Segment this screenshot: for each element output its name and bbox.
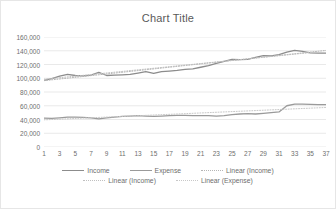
legend-row: IncomeExpenseLinear (Income) (62, 167, 273, 174)
x-axis-tick: 33 (291, 150, 298, 157)
legend-swatch-icon (83, 180, 105, 181)
series-line[interactable] (44, 107, 326, 119)
legend-swatch-icon (130, 170, 152, 171)
legend-item[interactable]: Linear (Income) (201, 167, 274, 174)
y-axis-tick: 0 (1, 144, 40, 151)
legend-row: Linear (Income)Linear (Expense) (83, 177, 252, 184)
legend-label: Linear (Income) (226, 167, 274, 174)
series-line[interactable] (44, 52, 318, 80)
legend-swatch-icon (201, 170, 223, 171)
x-axis-tick: 23 (213, 150, 220, 157)
chart-title[interactable]: Chart Title (1, 12, 335, 24)
y-axis-tick: 80,000 (1, 89, 40, 96)
y-axis-tick: 140,000 (1, 47, 40, 54)
y-axis-tick: 40,000 (1, 116, 40, 123)
y-axis-tick: 120,000 (1, 61, 40, 68)
x-axis-tick: 5 (74, 150, 78, 157)
y-axis-tick: 160,000 (1, 34, 40, 41)
series-line[interactable] (44, 104, 326, 119)
x-axis-tick: 19 (181, 150, 188, 157)
x-axis-tick: 1 (42, 150, 46, 157)
x-axis-tick: 7 (89, 150, 93, 157)
y-axis-labels: 160,000140,000120,000100,00080,00060,000… (1, 37, 40, 147)
legend-label: Linear (Expense) (201, 177, 253, 184)
x-axis-tick: 13 (134, 150, 141, 157)
chart-legend[interactable]: IncomeExpenseLinear (Income)Linear (Inco… (1, 167, 335, 184)
legend-item[interactable]: Linear (Expense) (176, 177, 253, 184)
plot-area[interactable] (44, 37, 326, 147)
x-axis-tick: 37 (322, 150, 329, 157)
legend-item[interactable]: Income (62, 167, 109, 174)
legend-item[interactable]: Linear (Income) (83, 177, 156, 184)
y-axis-tick: 60,000 (1, 102, 40, 109)
x-axis-tick: 3 (58, 150, 62, 157)
x-axis-tick: 11 (119, 150, 126, 157)
legend-swatch-icon (62, 170, 84, 171)
x-axis-tick: 17 (166, 150, 173, 157)
x-axis-tick: 21 (197, 150, 204, 157)
y-axis-tick: 20,000 (1, 130, 40, 137)
x-axis-labels: 135791113151719212325272931333537 (44, 150, 326, 162)
x-axis-tick: 31 (275, 150, 282, 157)
legend-swatch-icon (176, 180, 198, 181)
x-axis-tick: 29 (260, 150, 267, 157)
y-axis-tick: 100,000 (1, 75, 40, 82)
x-axis-tick: 9 (105, 150, 109, 157)
x-axis-tick: 15 (150, 150, 157, 157)
legend-label: Linear (Income) (108, 177, 156, 184)
x-axis-tick: 25 (228, 150, 235, 157)
x-axis-tick: 35 (307, 150, 314, 157)
legend-label: Income (87, 167, 109, 174)
chart-container[interactable]: Chart Title 160,000140,000120,000100,000… (0, 0, 336, 209)
x-axis-tick: 27 (244, 150, 251, 157)
legend-label: Expense (155, 167, 181, 174)
plot-svg (44, 37, 326, 147)
legend-item[interactable]: Expense (130, 167, 181, 174)
